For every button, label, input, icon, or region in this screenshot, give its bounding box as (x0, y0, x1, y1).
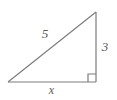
right-angle-marker-icon (88, 74, 96, 82)
horizontal-leg-label: x (45, 84, 58, 96)
hypotenuse-line (8, 12, 96, 82)
hypotenuse-label: 5 (38, 27, 52, 40)
vertical-leg-label: 3 (99, 40, 111, 53)
right-triangle-figure: 5 3 x (0, 0, 117, 100)
